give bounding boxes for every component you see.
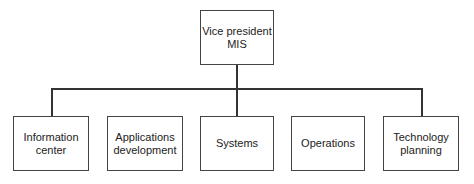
- node-label: Technology: [393, 131, 449, 144]
- node-technology-planning: Technologyplanning: [383, 116, 459, 171]
- node-label: center: [23, 144, 78, 157]
- node-vice-president-mis: Vice presidentMIS: [200, 10, 274, 65]
- node-label: MIS: [202, 38, 272, 51]
- node-label: Vice president: [202, 25, 272, 38]
- node-applications-development: Applicationsdevelopment: [107, 116, 183, 171]
- node-operations: Operations: [291, 116, 365, 171]
- node-label: planning: [393, 144, 449, 157]
- node-label: development: [114, 144, 177, 157]
- connector-root-vertical: [236, 65, 238, 116]
- node-systems: Systems: [200, 116, 274, 171]
- node-label: Information: [23, 131, 78, 144]
- connector-right-vertical: [421, 88, 423, 116]
- connector-left-vertical: [51, 88, 53, 116]
- node-label: Applications: [114, 131, 177, 144]
- connector-horizontal-bar: [51, 88, 423, 90]
- node-label: Operations: [301, 137, 355, 150]
- node-information-center: Informationcenter: [13, 116, 89, 171]
- node-label: Systems: [216, 137, 258, 150]
